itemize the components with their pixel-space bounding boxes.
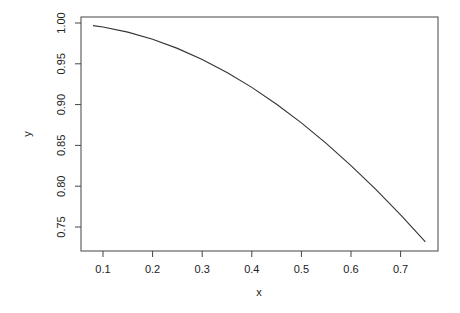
x-tick-label: 0.4 [244,263,259,275]
x-tick-label: 0.5 [294,263,309,275]
y-tick-label: 0.75 [55,216,67,237]
line-chart: 0.10.20.30.40.50.60.7 0.750.800.850.900.… [0,0,460,313]
y-axis: 0.750.800.850.900.951.00 [55,12,81,237]
y-tick-label: 0.90 [55,94,67,115]
x-tick-label: 0.2 [145,263,160,275]
y-tick-label: 0.95 [55,53,67,74]
y-tick-label: 0.80 [55,175,67,196]
data-line [93,26,425,242]
y-tick-label: 1.00 [55,12,67,33]
x-tick-label: 0.1 [95,263,110,275]
x-tick-label: 0.3 [195,263,210,275]
plot-frame [81,17,438,251]
y-axis-label: y [21,131,33,137]
x-axis: 0.10.20.30.40.50.60.7 [95,251,408,275]
x-tick-label: 0.6 [343,263,358,275]
x-tick-label: 0.7 [393,263,408,275]
x-axis-label: x [256,286,262,298]
y-tick-label: 0.85 [55,135,67,156]
